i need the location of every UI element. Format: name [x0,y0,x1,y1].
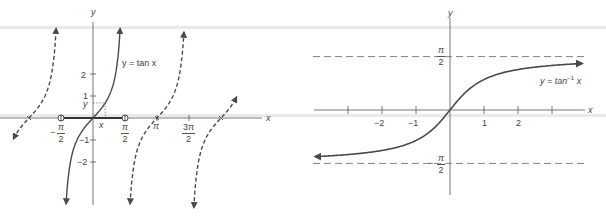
point-y-label: y [83,100,88,109]
tan-branch-2pi [194,97,237,208]
frac-den: 2 [123,134,128,144]
point-x-label: x [99,121,104,130]
frac-den: 2 [59,134,64,144]
plot-canvas [0,0,606,220]
tan-branch-neg-pi [14,28,57,138]
arctan-label-sup: −1 [567,75,574,81]
arctan-graph [313,18,587,195]
y-tick-label-2: 2 [81,71,86,80]
y-tick-label-neg1: −1 [79,136,89,145]
x-tick-label-1: 1 [482,119,487,128]
tan-curve-label-text: y = tan x [122,58,156,68]
x-tick-label-pi-over-2: π 2 [121,123,129,144]
neg-sign: − [428,158,433,168]
frac-num: π [121,123,129,134]
left-x-axis-label: x [266,114,271,123]
frac-den: 2 [439,165,444,175]
x-tick-label-3pi-over-2: 3π 2 [182,123,195,144]
frac-num: π [437,46,445,57]
arctan-label-prefix: y = tan [540,76,567,86]
frac-den: 2 [186,134,191,144]
asymptote-label-pi-over-2: π 2 [437,46,445,67]
left-y-axis-label: y [91,8,96,17]
right-x-axis-label: x [588,106,593,115]
figure: y x y = tan x 2 1 −1 −2 y x − π 2 π 2 π … [0,0,606,220]
tan-curve-label: y = tan x [122,59,156,68]
x-tick-label-2: 2 [516,119,521,128]
x-tick-label-neg1: −1 [408,119,418,128]
frac-num: π [437,154,445,165]
tan-graph [0,22,262,208]
right-y-axis-label: y [448,9,453,18]
arctan-curve-label: y = tan−1 x [540,75,581,86]
asymptote-label-neg-pi-over-2: π 2 [437,154,445,175]
frac-num: 3π [182,123,195,134]
y-tick-label-neg2: −2 [77,158,87,167]
x-tick-label-neg-pi-over-2: π 2 [57,123,65,144]
frac-den: 2 [439,57,444,67]
neg-sign: − [50,127,55,137]
x-tick-label-pi: π [153,122,159,131]
arctan-label-suffix: x [577,76,582,86]
frac-num: π [57,123,65,134]
x-tick-label-neg2: −2 [374,119,384,128]
